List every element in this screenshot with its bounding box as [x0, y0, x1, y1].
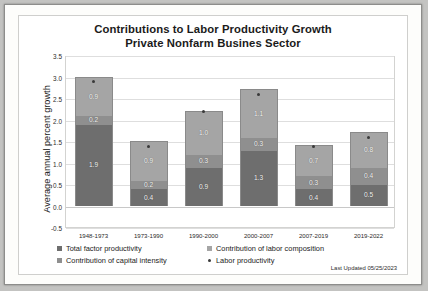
bar-segment-capital-intensity[interactable]: 0.4: [351, 168, 387, 185]
stacked-bar[interactable]: 0.70.30.4: [295, 145, 333, 205]
chart-subtitle: Private Nonfarm Busines Sector: [19, 36, 407, 50]
bar-segment-labor-composition[interactable]: 0.7: [296, 146, 332, 176]
bar-segment-value-label: 0.9: [89, 94, 98, 101]
y-axis-tick-label: 1.0: [53, 160, 62, 167]
bar-segment-labor-composition[interactable]: 0.9: [131, 142, 167, 181]
bar-segment-value-label: 1.3: [254, 175, 263, 182]
last-updated-note: Last Updated 05/25/2023: [331, 265, 397, 271]
bar-group[interactable]: 1.00.30.91990-2000: [176, 56, 231, 227]
legend-item[interactable]: Total factor productivity: [57, 244, 207, 253]
labor-productivity-marker: [312, 145, 315, 148]
bar-segment-capital-intensity[interactable]: 0.2: [76, 116, 112, 125]
x-axis-tick-label: 1990-2000: [189, 232, 218, 239]
bar-segment-capital-intensity[interactable]: 0.3: [186, 155, 222, 168]
stacked-bar[interactable]: 0.80.40.5: [350, 132, 388, 205]
y-axis-tick-label: 2.0: [53, 117, 62, 124]
labor-productivity-marker: [147, 145, 150, 148]
plot-area: 3.53.02.52.01.51.00.50.0-0.50.90.21.9194…: [65, 56, 395, 228]
legend-dot-icon: [208, 259, 211, 262]
bar-segment-value-label: 0.9: [144, 158, 153, 165]
legend-swatch-icon: [57, 258, 62, 263]
bar-segment-capital-intensity[interactable]: 0.3: [241, 138, 277, 151]
bar-segment-value-label: 0.5: [364, 192, 373, 199]
chart-title: Contributions to Labor Productivity Grow…: [19, 22, 407, 50]
bar-segment-value-label: 0.3: [309, 180, 318, 187]
bar-segment-value-label: 0.7: [309, 158, 318, 165]
stacked-bar[interactable]: 0.90.20.4: [130, 141, 168, 206]
bar-segment-total-factor-productivity[interactable]: 1.3: [241, 151, 277, 207]
chart-legend: Total factor productivityContribution of…: [57, 242, 357, 266]
stacked-bar[interactable]: 1.10.31.3: [240, 89, 278, 205]
stacked-bar[interactable]: 1.00.30.9: [185, 111, 223, 206]
y-axis-tick-label: -0.5: [51, 225, 62, 232]
bar-segment-capital-intensity[interactable]: 0.3: [296, 176, 332, 189]
bar-segment-value-label: 0.9: [199, 184, 208, 191]
bar-segment-value-label: 1.0: [199, 130, 208, 137]
legend-label: Contribution of labor composition: [216, 244, 324, 253]
x-axis-tick-label: 1948-1973: [79, 232, 108, 239]
legend-swatch-icon: [57, 246, 62, 251]
bar-segment-total-factor-productivity[interactable]: 0.4: [131, 189, 167, 206]
bar-segment-value-label: 0.4: [309, 195, 318, 202]
bar-segment-value-label: 0.4: [144, 195, 153, 202]
legend-item[interactable]: Contribution of capital intensity: [57, 256, 207, 265]
bar-group[interactable]: 0.80.40.52019-2022: [341, 56, 396, 227]
legend-label: Labor productivity: [216, 256, 274, 265]
bar-segment-total-factor-productivity[interactable]: 0.4: [296, 189, 332, 206]
bar-segment-value-label: 0.8: [364, 147, 373, 154]
chart-container: Contributions to Labor Productivity Grow…: [18, 15, 408, 275]
bar-segment-value-label: 0.3: [254, 141, 263, 148]
legend-label: Total factor productivity: [66, 244, 142, 253]
x-axis-tick-label: 2000-2007: [244, 232, 273, 239]
legend-swatch-icon: [207, 246, 212, 251]
gridline: [66, 228, 394, 229]
y-axis-title: Average annual percent growth: [42, 64, 52, 234]
bar-segment-capital-intensity[interactable]: 0.2: [131, 181, 167, 190]
legend-label: Contribution of capital intensity: [66, 256, 167, 265]
bar-segment-value-label: 0.4: [364, 173, 373, 180]
y-axis-tick-label: 1.5: [53, 139, 62, 146]
chart-title-line1: Contributions to Labor Productivity Grow…: [94, 23, 332, 35]
y-axis-tick-label: 2.5: [53, 96, 62, 103]
bar-group[interactable]: 0.70.30.42007-2019: [286, 56, 341, 227]
bar-group[interactable]: 0.90.21.91948-1973: [66, 56, 121, 227]
bar-segment-labor-composition[interactable]: 1.0: [186, 112, 222, 155]
y-axis-tick-label: 0.0: [53, 203, 62, 210]
stacked-bar[interactable]: 0.90.21.9: [75, 77, 113, 206]
bar-segment-total-factor-productivity[interactable]: 0.9: [186, 168, 222, 207]
bar-segment-value-label: 0.2: [144, 182, 153, 189]
bar-segment-total-factor-productivity[interactable]: 0.5: [351, 185, 387, 207]
x-axis-tick-label: 2007-2019: [299, 232, 328, 239]
document-sheet: Contributions to Labor Productivity Grow…: [4, 4, 422, 285]
bar-segment-value-label: 0.3: [199, 158, 208, 165]
x-axis-tick-label: 1973-1990: [134, 232, 163, 239]
bar-group[interactable]: 0.90.20.41973-1990: [121, 56, 176, 227]
bar-segment-labor-composition[interactable]: 1.1: [241, 90, 277, 137]
y-axis-tick-label: 3.5: [53, 53, 62, 60]
legend-item[interactable]: Contribution of labor composition: [207, 244, 357, 253]
bar-group[interactable]: 1.10.31.32000-2007: [231, 56, 286, 227]
bar-segment-labor-composition[interactable]: 0.9: [76, 78, 112, 117]
page-background: Contributions to Labor Productivity Grow…: [0, 0, 428, 291]
bar-segment-total-factor-productivity[interactable]: 1.9: [76, 125, 112, 207]
bar-segment-value-label: 0.2: [89, 117, 98, 124]
bar-segment-value-label: 1.9: [89, 162, 98, 169]
y-axis-tick-label: 0.5: [53, 182, 62, 189]
x-axis-tick-label: 2019-2022: [354, 232, 383, 239]
y-axis-tick-label: 3.0: [53, 74, 62, 81]
legend-item[interactable]: Labor productivity: [207, 256, 357, 265]
bar-segment-value-label: 1.1: [254, 111, 263, 118]
